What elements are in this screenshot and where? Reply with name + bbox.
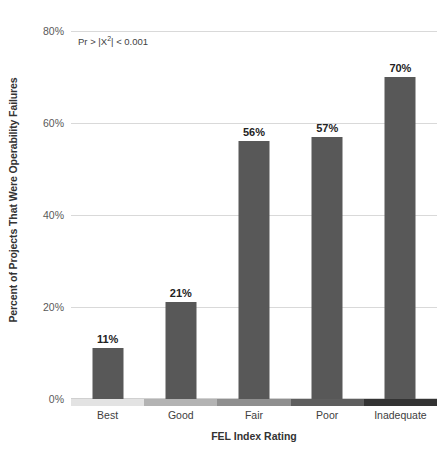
- bar-label-inadequate: 70%: [389, 62, 411, 74]
- bar-group-inadequate: 70%: [364, 31, 437, 399]
- bar-label-poor: 57%: [316, 122, 338, 134]
- y-tick-label-80: 80%: [26, 25, 64, 37]
- bar-chart: Percent of Projects That Were Operabilit…: [0, 0, 445, 454]
- y-tick-label-60: 60%: [26, 117, 64, 129]
- x-axis-title: FEL Index Rating: [71, 430, 437, 442]
- band-segment-good: [144, 399, 217, 406]
- bar-best: [92, 348, 123, 399]
- band-segment-best: [71, 399, 144, 406]
- bar-inadequate: [385, 77, 416, 399]
- bar-good: [165, 302, 196, 399]
- x-tick-label-fair: Fair: [217, 409, 290, 425]
- plot-area: Pr > |X2| < 0.001 11% 21% 56% 57% 70%: [71, 31, 437, 399]
- y-tick-label-0: 0%: [26, 393, 64, 405]
- bar-group-fair: 56%: [217, 31, 290, 399]
- bar-group-best: 11%: [71, 31, 144, 399]
- bar-group-poor: 57%: [291, 31, 364, 399]
- y-tick-label-20: 20%: [26, 301, 64, 313]
- bar-label-fair: 56%: [243, 126, 265, 138]
- y-tick-label-40: 40%: [26, 209, 64, 221]
- x-tick-label-best: Best: [71, 409, 144, 425]
- y-axis-title: Percent of Projects That Were Operabilit…: [0, 0, 26, 400]
- bar-label-best: 11%: [97, 333, 118, 345]
- x-tick-label-inadequate: Inadequate: [364, 409, 437, 425]
- x-tick-label-good: Good: [144, 409, 217, 425]
- band-segment-inadequate: [364, 399, 437, 406]
- x-tick-label-poor: Poor: [291, 409, 364, 425]
- band-segment-fair: [217, 399, 290, 406]
- bar-group-good: 21%: [144, 31, 217, 399]
- bar-label-good: 21%: [170, 287, 192, 299]
- y-axis-title-text: Percent of Projects That Were Operabilit…: [7, 77, 19, 322]
- bar-poor: [312, 137, 343, 399]
- bar-fair: [238, 141, 269, 399]
- x-tick-labels: Best Good Fair Poor Inadequate: [71, 409, 437, 425]
- x-axis-severity-band: [71, 399, 437, 406]
- band-segment-poor: [291, 399, 364, 406]
